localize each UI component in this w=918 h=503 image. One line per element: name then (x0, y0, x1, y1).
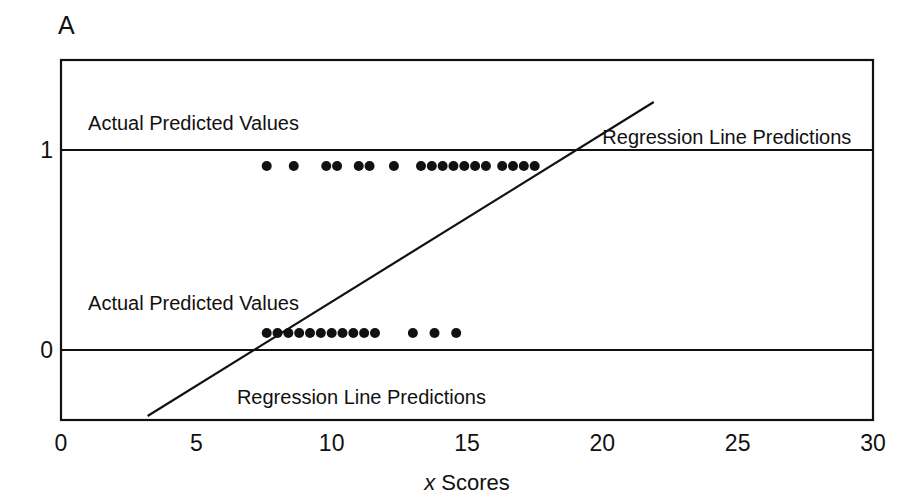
data-point (430, 328, 440, 338)
series-0 (262, 161, 540, 171)
x-tick-label: 30 (860, 432, 886, 455)
data-point (359, 328, 369, 338)
x-tick-label: 10 (319, 432, 345, 455)
data-point (283, 328, 293, 338)
data-point (508, 161, 518, 171)
data-point (273, 328, 283, 338)
data-point (294, 328, 304, 338)
data-point (354, 161, 364, 171)
data-point (519, 161, 529, 171)
data-point (497, 161, 507, 171)
data-point (389, 161, 399, 171)
figure-panel-a: A 05101520253001 Actual Predicted Values… (0, 0, 918, 503)
x-axis-title: x Scores (424, 472, 510, 494)
data-point (427, 161, 437, 171)
y-tick-label: 0 (31, 339, 53, 362)
data-point (365, 161, 375, 171)
annot-regression-upper: Regression Line Predictions (602, 127, 851, 147)
data-point (416, 161, 426, 171)
data-point (337, 328, 347, 338)
x-axis-title-variable: x (424, 470, 435, 495)
data-point (470, 161, 480, 171)
data-point (321, 161, 331, 171)
x-tick-label: 25 (725, 432, 751, 455)
x-tick-label: 15 (454, 432, 480, 455)
x-tick-label: 0 (55, 432, 68, 455)
data-point (262, 328, 272, 338)
annot-actual-upper: Actual Predicted Values (88, 113, 299, 133)
y-tick-label: 1 (31, 139, 53, 162)
x-axis-title-text: Scores (435, 470, 510, 495)
data-point (348, 328, 358, 338)
data-point (316, 328, 326, 338)
annot-regression-lower: Regression Line Predictions (237, 387, 486, 407)
data-point (438, 161, 448, 171)
data-point (451, 328, 461, 338)
x-tick-label: 5 (190, 432, 203, 455)
data-point (305, 328, 315, 338)
data-point (370, 328, 380, 338)
annot-actual-lower: Actual Predicted Values (88, 293, 299, 313)
series-1 (262, 328, 461, 338)
data-point (530, 161, 540, 171)
data-point (448, 161, 458, 171)
plot-canvas (0, 0, 918, 503)
x-tick-label: 20 (590, 432, 616, 455)
data-point (327, 328, 337, 338)
data-point (332, 161, 342, 171)
data-point (481, 161, 491, 171)
data-point (459, 161, 469, 171)
data-point (289, 161, 299, 171)
data-point (408, 328, 418, 338)
data-point (262, 161, 272, 171)
